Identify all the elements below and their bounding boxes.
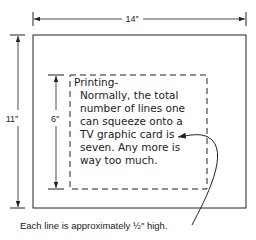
card-diagram: 14″ 11″ 6″ Printing- Normally, the total… — [0, 0, 256, 240]
width-label: 14″ — [125, 14, 139, 24]
caption: Each line is approximately ½″ high. — [20, 220, 168, 231]
height-label: 11″ — [6, 114, 19, 124]
leader-arrow-icon — [178, 135, 218, 225]
text-line: number of lines one — [80, 102, 185, 114]
text-line: Normally, the total — [80, 89, 178, 101]
width-dimension: 14″ — [33, 12, 246, 26]
text-line: seven. Any more is — [80, 141, 180, 153]
text-line: TV graphic card is — [79, 128, 174, 140]
safe-area-label: 6″ — [51, 114, 60, 124]
text-line: way too much. — [80, 154, 158, 166]
safe-area-dimension: 6″ — [48, 75, 64, 189]
text-line: Printing- — [74, 76, 118, 88]
safe-area-text: Printing- Normally, the total number of … — [74, 76, 185, 166]
height-dimension: 11″ — [6, 35, 25, 208]
text-line: can squeeze onto a — [80, 115, 183, 127]
